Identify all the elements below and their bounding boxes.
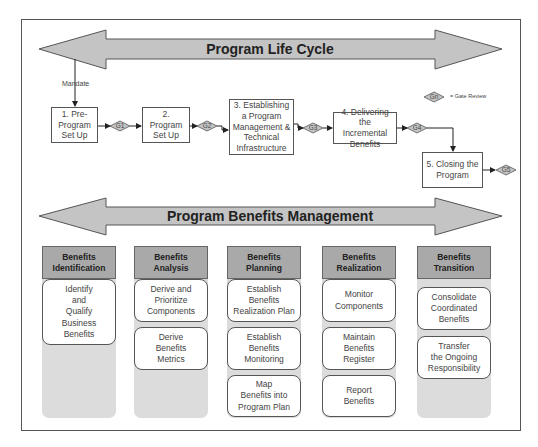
step-delivering-benefits: 4. Delivering the Incremental Benefits	[333, 112, 397, 144]
lifecycle-title: Program Life Cycle	[160, 41, 380, 57]
activity-card: Establish Benefits Realization Plan	[227, 279, 301, 322]
gate-label-g1: G1	[110, 121, 130, 131]
column-header: Benefits Planning	[227, 246, 301, 279]
column-benefits-transition: Benefits Transition Consolidate Coordina…	[417, 246, 491, 418]
column-header: Benefits Transition	[417, 246, 491, 279]
gate-label-g3: G3	[303, 123, 323, 133]
column-benefits-planning: Benefits Planning Establish Benefits Rea…	[227, 246, 301, 418]
activity-card: Report Benefits	[322, 375, 396, 417]
column-header: Benefits Realization	[322, 246, 396, 279]
benefits-title: Program Benefits Management	[150, 208, 390, 224]
legend-text: = Gate Review	[450, 93, 486, 99]
column-benefits-identification: Benefits Identification Identify and Qua…	[42, 246, 116, 418]
legend-symbol: Gn	[424, 92, 444, 102]
activity-card: Maintain Benefits Register	[322, 327, 396, 370]
activity-card: Derive and Prioritize Components	[134, 279, 208, 322]
activity-card: Consolidate Coordinated Benefits	[417, 287, 491, 330]
column-benefits-realization: Benefits Realization Monitor Components …	[322, 246, 396, 418]
column-header: Benefits Identification	[42, 246, 116, 279]
gate-label-g5: G5	[496, 165, 516, 175]
activity-card: Identify and Qualify Business Benefits	[42, 279, 116, 345]
step-program-setup: 2. Program Set Up	[142, 107, 190, 143]
gate-label-g2: G2	[197, 121, 217, 131]
gate-label-g4: G4	[407, 123, 427, 133]
step-establishing-infrastructure: 3. Establishing a Program Management & T…	[229, 99, 294, 155]
activity-card: Monitor Components	[322, 279, 396, 322]
activity-card: Derive Benefits Metrics	[134, 327, 208, 370]
column-benefits-analysis: Benefits Analysis Derive and Prioritize …	[134, 246, 208, 418]
activity-card: Establish Benefits Monitoring	[227, 327, 301, 370]
step-pre-program-setup: 1. Pre- Program Set Up	[51, 107, 98, 143]
step-closing-program: 5. Closing the Program	[422, 152, 483, 188]
activity-card: Transfer the Ongoing Responsibility	[417, 336, 491, 379]
column-header: Benefits Analysis	[134, 246, 208, 279]
mandate-label: Mandate	[62, 80, 89, 87]
activity-card: Map Benefits into Program Plan	[227, 375, 301, 417]
